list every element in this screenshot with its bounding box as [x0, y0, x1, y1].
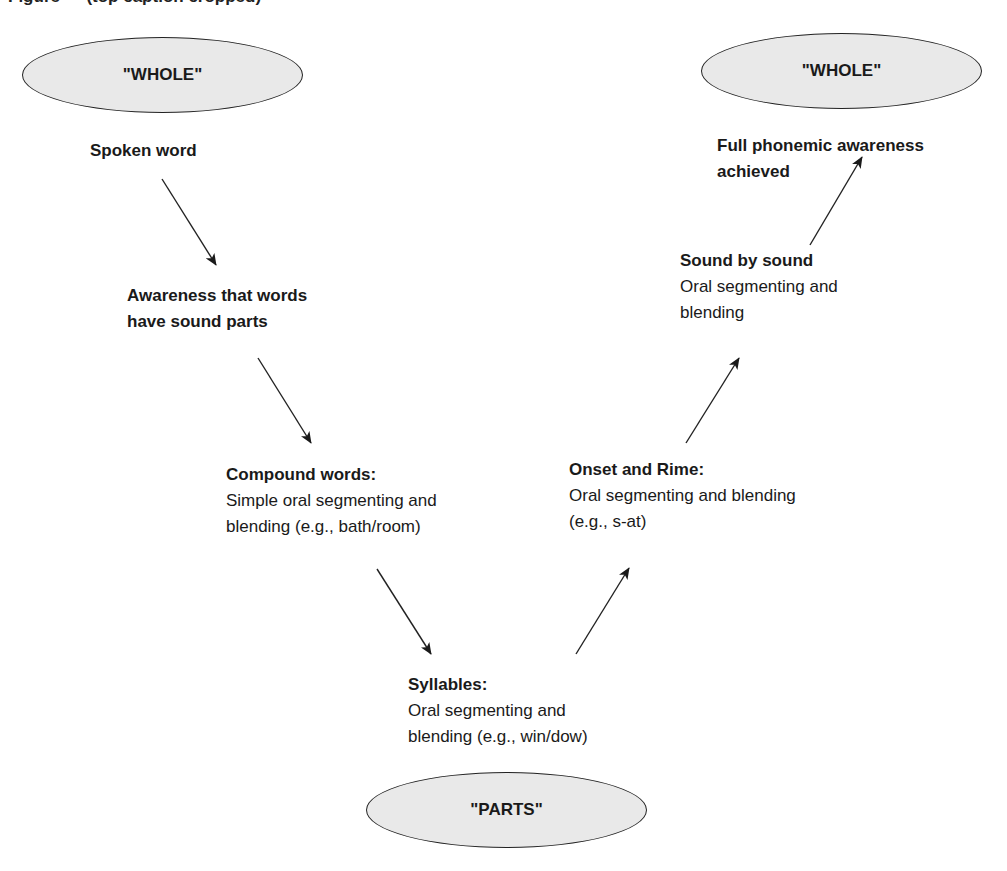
syllables-title: Syllables:: [408, 672, 588, 698]
node-onset-rime: Onset and Rime: Oral segmenting and blen…: [569, 457, 796, 535]
compound-desc-line1: Simple oral segmenting and: [226, 488, 437, 514]
compound-title: Compound words:: [226, 462, 437, 488]
node-compound-words: Compound words: Simple oral segmenting a…: [226, 462, 437, 540]
arrow-onset-rime-to-sound-by-sound: [686, 358, 739, 443]
whole-start-label: "WHOLE": [123, 65, 202, 85]
awareness-title-line2: have sound parts: [127, 309, 307, 335]
arrow-compound-to-syllables: [377, 569, 431, 654]
whole-end-label: "WHOLE": [802, 61, 881, 81]
sound-by-sound-desc-line2: blending: [680, 300, 838, 326]
compound-desc-line2: blending (e.g., bath/room): [226, 514, 437, 540]
arrow-spoken-word-to-awareness: [162, 179, 216, 265]
whole-end-ellipse: "WHOLE": [701, 33, 982, 109]
node-awareness: Awareness that words have sound parts: [127, 283, 307, 335]
full-awareness-title-line2: achieved: [717, 159, 924, 185]
onset-rime-desc-line2: (e.g., s-at): [569, 509, 796, 535]
onset-rime-title: Onset and Rime:: [569, 457, 796, 483]
sound-by-sound-title: Sound by sound: [680, 248, 838, 274]
node-syllables: Syllables: Oral segmenting and blending …: [408, 672, 588, 750]
node-full-awareness: Full phonemic awareness achieved: [717, 133, 924, 185]
parts-label: "PARTS": [470, 800, 542, 820]
whole-start-ellipse: "WHOLE": [22, 37, 303, 113]
node-spoken-word: Spoken word: [90, 138, 197, 164]
spoken-word-title: Spoken word: [90, 138, 197, 164]
sound-by-sound-desc-line1: Oral segmenting and: [680, 274, 838, 300]
arrow-syllables-to-onset-rime: [576, 568, 629, 654]
syllables-desc-line1: Oral segmenting and: [408, 698, 588, 724]
onset-rime-desc-line1: Oral segmenting and blending: [569, 483, 796, 509]
awareness-title-line1: Awareness that words: [127, 283, 307, 309]
arrow-awareness-to-compound: [258, 358, 311, 443]
syllables-desc-line2: blending (e.g., win/dow): [408, 724, 588, 750]
parts-ellipse: "PARTS": [366, 772, 647, 848]
node-sound-by-sound: Sound by sound Oral segmenting and blend…: [680, 248, 838, 326]
full-awareness-title-line1: Full phonemic awareness: [717, 133, 924, 159]
